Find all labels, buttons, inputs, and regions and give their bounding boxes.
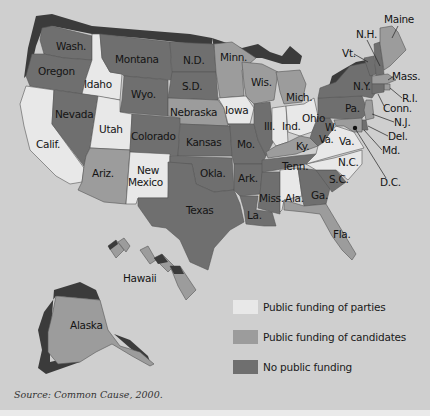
bottom-border <box>0 410 430 416</box>
label-ar: Ark. <box>238 172 258 184</box>
label-ne: Nebraska <box>170 106 217 118</box>
label-nm-1: New <box>137 164 160 176</box>
label-mn: Minn. <box>220 51 247 63</box>
label-ky: Ky. <box>296 140 309 152</box>
label-ga: Ga. <box>311 189 328 201</box>
label-nm-2: Mexico <box>128 176 163 188</box>
label-tx: Texas <box>185 204 214 216</box>
label-wv-1: W. <box>325 122 336 133</box>
legend-label-candidates: Public funding of candidates <box>263 331 406 343</box>
label-la: La. <box>247 209 262 221</box>
state-pa[interactable] <box>318 96 368 120</box>
label-vt: Vt. <box>342 47 356 59</box>
label-ms: Miss. <box>259 192 284 204</box>
legend-swatch-candidates <box>233 330 258 344</box>
dc-marker <box>353 126 357 130</box>
label-az: Ariz. <box>92 167 114 179</box>
label-in: Ind. <box>282 120 301 132</box>
legend-swatch-none <box>233 360 258 374</box>
us-public-funding-map: Wash. Oregon Calif. Idaho Nevada Montana… <box>0 0 430 416</box>
legend-item-parties: Public funding of parties <box>233 292 406 322</box>
label-ks: Kansas <box>186 136 221 148</box>
state-ri[interactable] <box>384 84 390 90</box>
legend-label-parties: Public funding of parties <box>263 301 386 313</box>
label-id: Idaho <box>84 78 112 90</box>
label-sc: S.C. <box>329 173 348 185</box>
label-or: Oregon <box>38 65 75 77</box>
label-de: Del. <box>388 130 408 142</box>
label-hi: Hawaii <box>123 272 156 284</box>
label-al: Ala. <box>285 192 304 204</box>
state-ct[interactable] <box>372 84 384 94</box>
label-ak: Alaska <box>70 319 103 331</box>
label-mo: Mo. <box>237 138 255 150</box>
label-wv-2: Va. <box>319 134 334 145</box>
label-ny: N.Y. <box>353 80 371 92</box>
label-sd: S.D. <box>182 80 202 92</box>
label-ok: Okla. <box>200 167 226 179</box>
label-ma: Mass. <box>392 70 420 82</box>
label-wy: Wyo. <box>131 88 156 100</box>
label-ut: Utah <box>99 123 123 135</box>
label-tn: Tenn. <box>281 160 308 172</box>
label-mt: Montana <box>115 53 159 65</box>
state-de[interactable] <box>362 120 368 130</box>
label-mi: Mich. <box>286 91 312 103</box>
label-nv: Nevada <box>55 108 93 120</box>
label-wi: Wis. <box>251 76 272 88</box>
label-nd: N.D. <box>183 54 204 66</box>
legend-swatch-parties <box>233 300 258 314</box>
label-nh: N.H. <box>356 28 377 40</box>
legend-item-candidates: Public funding of candidates <box>233 322 406 352</box>
legend-item-none: No public funding <box>233 352 406 382</box>
label-md: Md. <box>382 144 400 156</box>
label-nc: N.C. <box>338 156 359 168</box>
label-co: Colorado <box>131 130 176 142</box>
label-pa: Pa. <box>345 102 360 114</box>
label-wa: Wash. <box>56 40 86 52</box>
label-va: Va. <box>339 135 354 147</box>
legend: Public funding of parties Public funding… <box>233 292 406 382</box>
legend-label-none: No public funding <box>263 361 352 373</box>
label-dc: D.C. <box>380 176 401 188</box>
label-il: Ill. <box>264 120 275 132</box>
label-ct: Conn. <box>383 102 412 114</box>
label-ca: Calif. <box>36 138 60 150</box>
label-ia: Iowa <box>225 104 248 116</box>
label-nj: N.J. <box>394 116 410 128</box>
hawaii-islands[interactable] <box>108 238 196 300</box>
label-fl: Fla. <box>333 228 351 240</box>
label-me: Maine <box>384 13 414 25</box>
state-me[interactable] <box>380 26 406 70</box>
state-nj[interactable] <box>364 100 374 120</box>
source-caption: Source: Common Cause, 2000. <box>14 389 163 400</box>
label-oh: Ohio <box>302 112 325 124</box>
